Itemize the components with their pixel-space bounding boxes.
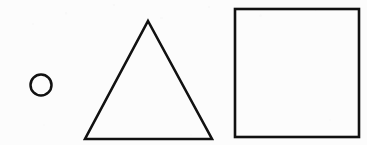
shapes-drawing — [0, 0, 367, 145]
triangle-shape — [85, 21, 212, 139]
shapes-canvas — [0, 0, 367, 145]
circle-shape — [31, 75, 52, 96]
square-shape — [235, 9, 359, 137]
